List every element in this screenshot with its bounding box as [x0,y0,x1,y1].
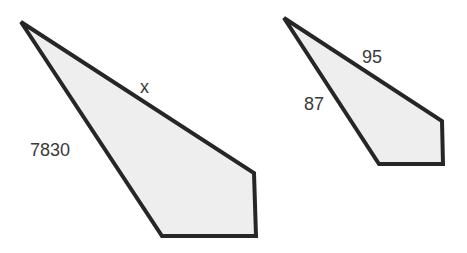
small-polygon-group: 95 87 [284,18,443,164]
large-polygon [21,22,256,236]
small-polygon-top-edge-label: 95 [362,47,382,67]
small-polygon-left-edge-label: 87 [304,94,324,114]
large-polygon-left-edge-label: 7830 [30,140,70,160]
large-polygon-top-edge-label: x [140,77,149,97]
similar-polygons-diagram: x 7830 95 87 [0,0,467,253]
large-polygon-group: x 7830 [21,22,256,236]
small-polygon [284,18,443,164]
